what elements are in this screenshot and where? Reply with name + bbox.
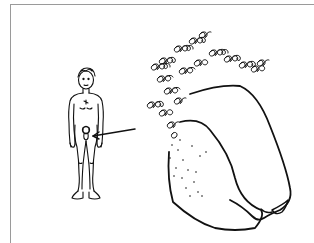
standing-figure (69, 68, 104, 199)
pointer-arrow (93, 129, 135, 139)
enlarged-detail (147, 32, 290, 230)
illustration-canvas (0, 0, 314, 243)
stipple-texture (169, 139, 207, 197)
curly-hair-texture (147, 32, 269, 138)
